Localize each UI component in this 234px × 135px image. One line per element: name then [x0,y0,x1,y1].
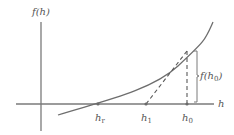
point-h0 [185,102,188,105]
brace-label-suffix: ) [218,70,223,81]
label-hr: hr [95,112,105,125]
brace-label-prefix: f(h [199,70,214,81]
newton-method-diagram: f(h) h f(h0) hr h1 h0 [0,0,234,135]
brace-label: f(h0) [199,70,223,83]
point-h1 [144,102,147,105]
function-curve [58,22,213,115]
x-axis-label: h [218,98,224,109]
y-axis-label: f(h) [31,6,50,17]
label-h0: h0 [182,112,193,125]
brace-f-h0 [194,51,199,102]
label-h1: h1 [141,112,152,125]
tangent-line [146,51,187,104]
point-hr [96,102,99,105]
